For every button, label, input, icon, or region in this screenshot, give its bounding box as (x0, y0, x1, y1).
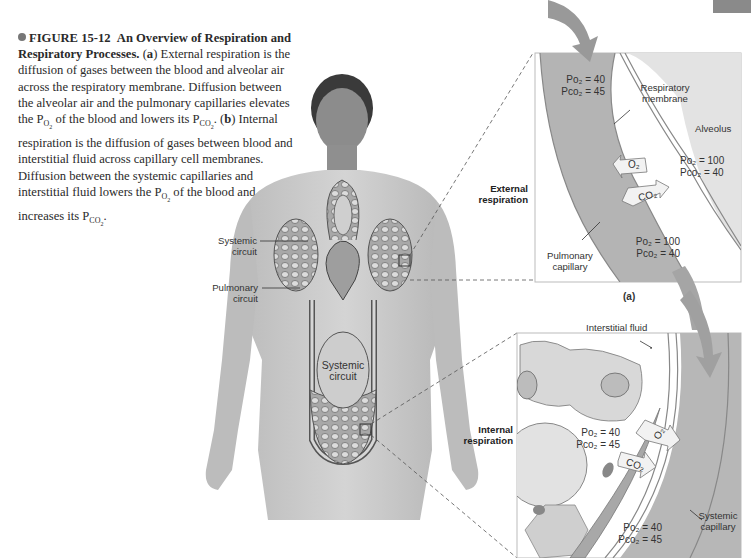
blood-in-pco2: Pco₂ = 45 (555, 86, 605, 98)
alveolus-pco2: Pco₂ = 40 (680, 167, 740, 179)
human-figure (206, 53, 533, 558)
label-respiratory-membrane: Respiratory membrane (630, 82, 700, 104)
label-systemic-circuit-upper: Systemic circuit (205, 235, 257, 257)
label-external-respiration: External respiration (470, 183, 528, 205)
label-interstitial-fluid: Interstitial fluid (586, 322, 647, 333)
label-alveolus: Alveolus (695, 123, 731, 134)
label-systemic-circuit-lower: Systemic circuit (318, 360, 368, 382)
blood-out-pco2: Pco₂ = 40 (630, 248, 680, 260)
label-pulmonary-circuit: Pulmonary circuit (190, 282, 258, 304)
o2-arrow-label: O₂ (628, 159, 640, 170)
label-systemic-capillary: Systemic capillary (690, 510, 746, 532)
label-internal-respiration: Internal respiration (455, 424, 513, 446)
label-pulmonary-capillary: Pulmonary capillary (540, 250, 600, 272)
blood-out-pco2-b: Pco₂ = 45 (610, 534, 662, 546)
panel-a-letter: (a) (623, 291, 635, 302)
tissue-po2: Po₂ = 40 (570, 427, 620, 439)
alveolus-po2: Po₂ = 100 (680, 155, 740, 167)
blood-out-po2: Po₂ = 100 (630, 236, 680, 248)
tissue-pco2: Pco₂ = 45 (570, 439, 620, 451)
blood-in-po2: Po₂ = 40 (555, 74, 605, 86)
blood-out-po2-b: Po₂ = 40 (610, 522, 662, 534)
